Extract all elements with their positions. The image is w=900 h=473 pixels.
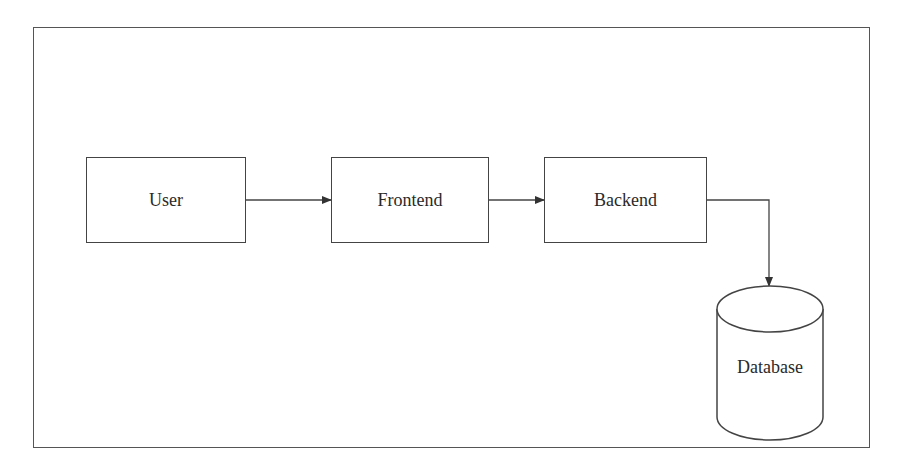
diagram-canvas: User Frontend Backend Database	[0, 0, 900, 473]
edge-backend-database	[707, 200, 769, 286]
node-backend[interactable]: Backend	[544, 157, 707, 243]
node-frontend-label: Frontend	[378, 190, 443, 211]
node-user[interactable]: User	[86, 157, 246, 243]
node-backend-label: Backend	[594, 190, 657, 211]
node-database-label: Database	[717, 357, 823, 378]
node-user-label: User	[149, 190, 183, 211]
node-frontend[interactable]: Frontend	[331, 157, 489, 243]
